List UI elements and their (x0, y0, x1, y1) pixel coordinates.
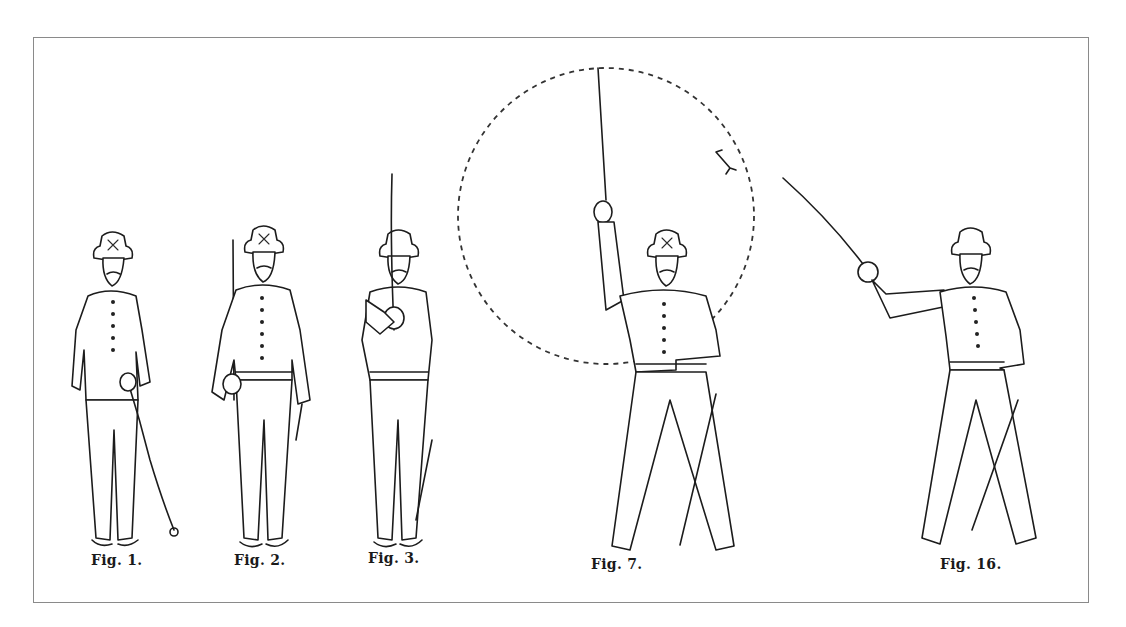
illustration-plate (0, 0, 1126, 627)
clockwise-arrow-icon (716, 150, 736, 174)
caption-fig-1: Fig. 1. (91, 552, 143, 568)
figure-3-soldier (362, 174, 432, 547)
figure-7-soldier (458, 68, 754, 550)
caption-fig-16: Fig. 16. (940, 556, 1002, 572)
figure-1-soldier (72, 232, 178, 545)
caption-fig-2: Fig. 2. (234, 552, 286, 568)
caption-fig-7: Fig. 7. (591, 556, 643, 572)
caption-fig-3: Fig. 3. (368, 550, 420, 566)
figure-16-soldier (783, 178, 1036, 544)
figure-2-soldier (212, 226, 310, 547)
